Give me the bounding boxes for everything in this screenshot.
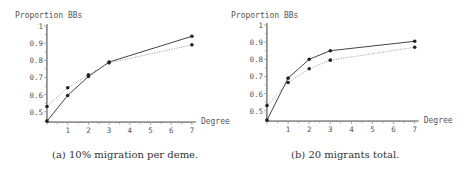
x-tick-label: 6	[169, 126, 174, 135]
x-tick-label: 2	[307, 125, 312, 134]
x-tick-label: 7	[412, 125, 417, 134]
chart-a-plot: Proportion BBs1234567Degree0.50.60.70.80…	[0, 0, 232, 140]
y-tick-label: 0.9	[29, 39, 43, 48]
x-tick-label: 7	[190, 126, 195, 135]
x-tick-label: 6	[391, 125, 396, 134]
y-tick-label: 1	[258, 21, 263, 30]
data-point	[286, 76, 290, 80]
data-point	[190, 43, 194, 47]
data-point	[413, 45, 417, 49]
series-line-solid	[267, 41, 415, 120]
y-tick-label: 0.7	[249, 72, 263, 81]
data-point	[329, 49, 333, 53]
x-tick-label: 5	[148, 126, 153, 135]
data-point	[286, 81, 290, 85]
y-tick-label: 0.8	[249, 55, 263, 64]
y-tick-label: 0.7	[29, 73, 43, 82]
data-point	[66, 94, 70, 98]
y-tick-label: 1	[38, 22, 43, 31]
chart-a: Proportion BBs1234567Degree0.50.60.70.80…	[0, 0, 232, 140]
data-point	[66, 86, 70, 90]
y-tick-label: 0.5	[249, 107, 263, 116]
y-tick-label: 0.8	[29, 56, 43, 65]
data-point	[307, 67, 311, 71]
data-point	[265, 104, 269, 108]
y-tick-label: 0.6	[29, 91, 43, 100]
series-line-dotted	[267, 47, 415, 105]
data-point	[107, 61, 111, 65]
y-axis-label: Proportion BBs	[231, 11, 299, 20]
data-point	[329, 58, 333, 62]
data-point	[265, 118, 269, 122]
series-line-solid	[47, 36, 192, 121]
caption-b: (b) 20 migrants total.	[291, 149, 399, 160]
data-point	[190, 34, 194, 38]
x-tick-label: 4	[128, 126, 133, 135]
x-tick-label: 3	[328, 125, 333, 134]
series-line-dotted	[47, 45, 192, 107]
data-point	[413, 39, 417, 43]
x-tick-label: 1	[286, 125, 291, 134]
y-tick-label: 0.6	[249, 90, 263, 99]
y-axis-label: Proportion BBs	[15, 11, 83, 20]
x-tick-label: 3	[107, 126, 112, 135]
chart-b: Proportion BBs1234567Degree0.50.60.70.80…	[221, 0, 465, 140]
caption-a: (a) 10% migration per deme.	[52, 149, 198, 160]
x-tick-label: 4	[349, 125, 354, 134]
data-point	[45, 105, 49, 109]
x-tick-label: 5	[370, 125, 375, 134]
y-tick-label: 0.5	[29, 108, 43, 117]
y-tick-label: 0.9	[249, 38, 263, 47]
data-point	[45, 119, 49, 123]
x-tick-label: 1	[65, 126, 70, 135]
x-tick-label: 2	[86, 126, 91, 135]
x-axis-label: Degree	[424, 116, 453, 125]
data-point	[87, 73, 91, 77]
chart-b-plot: Proportion BBs1234567Degree0.50.60.70.80…	[221, 0, 465, 140]
data-point	[307, 57, 311, 61]
